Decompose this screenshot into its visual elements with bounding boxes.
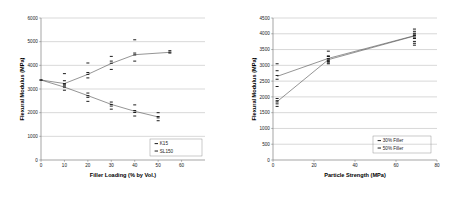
x-axis-tick-label: 50 xyxy=(156,163,162,168)
data-point xyxy=(276,100,279,101)
data-point xyxy=(157,112,160,113)
x-axis-title: Filler Loading (% by Vol.) xyxy=(90,172,157,178)
x-axis-tick-label: 0 xyxy=(40,163,43,168)
y-axis-title: Flexural Modulus (MPa) xyxy=(19,57,25,120)
y-axis-title: Flexural Modulus (MPa) xyxy=(251,57,257,120)
data-point xyxy=(413,33,416,34)
data-point xyxy=(413,41,416,42)
y-axis-tick-label: 2000 xyxy=(28,110,39,115)
legend-label-1: SL150 xyxy=(160,149,174,154)
data-point xyxy=(276,79,279,80)
data-point xyxy=(110,61,113,62)
data-point xyxy=(327,61,330,62)
chart-left-canvas: 01000200030004000500060000102030405060Fi… xyxy=(0,0,225,207)
data-point xyxy=(63,85,66,86)
data-point xyxy=(327,62,330,63)
series-trend-line-0 xyxy=(41,52,170,83)
data-point xyxy=(413,29,416,30)
data-point xyxy=(413,36,416,37)
data-point xyxy=(133,116,136,117)
data-point xyxy=(86,74,89,75)
data-point xyxy=(110,104,113,105)
data-point xyxy=(276,75,279,76)
data-point xyxy=(110,69,113,70)
y-axis-tick-label: 6000 xyxy=(28,16,39,21)
legend-marker-1 xyxy=(378,148,381,149)
data-point xyxy=(276,70,279,71)
x-axis-tick-label: 20 xyxy=(311,163,317,168)
data-point xyxy=(276,86,279,87)
data-point xyxy=(133,39,136,40)
data-point xyxy=(413,31,416,32)
chart-filler-loading: 01000200030004000500060000102030405060Fi… xyxy=(0,0,225,207)
legend-label-1: 50% Filler xyxy=(383,146,404,151)
y-axis-tick-label: 1000 xyxy=(260,126,271,131)
y-axis-tick-label: 3000 xyxy=(260,63,271,68)
data-point xyxy=(276,106,279,107)
data-point xyxy=(63,83,66,84)
data-point xyxy=(63,73,66,74)
y-axis-tick-label: 3500 xyxy=(260,47,271,52)
data-point xyxy=(413,38,416,39)
legend-label-0: 30% Filler xyxy=(383,138,404,143)
data-point xyxy=(276,103,279,104)
data-point xyxy=(86,63,89,64)
x-axis-tick-label: 40 xyxy=(132,163,138,168)
data-point xyxy=(413,43,416,44)
data-point xyxy=(86,95,89,96)
data-point xyxy=(63,90,66,91)
x-axis-tick-label: 60 xyxy=(393,163,399,168)
data-point xyxy=(86,77,89,78)
y-axis-tick-label: 1500 xyxy=(260,110,271,115)
data-point xyxy=(110,102,113,103)
data-point xyxy=(168,50,171,51)
two-panel-scatter-figure: 01000200030004000500060000102030405060Fi… xyxy=(0,0,450,207)
legend-marker-0 xyxy=(155,143,158,144)
data-point xyxy=(276,101,279,102)
data-point xyxy=(133,112,136,113)
chart-particle-strength: 0500100015002000250030003500400045000204… xyxy=(225,0,450,207)
y-axis-tick-label: 4000 xyxy=(28,63,39,68)
data-point xyxy=(86,97,89,98)
y-axis-tick-label: 0 xyxy=(35,158,38,163)
series-trend-line-1 xyxy=(277,36,414,102)
data-point xyxy=(157,117,160,118)
data-point xyxy=(86,101,89,102)
legend-marker-0 xyxy=(378,140,381,141)
x-axis-tick-label: 60 xyxy=(179,163,185,168)
x-axis-tick-label: 40 xyxy=(352,163,358,168)
data-point xyxy=(327,55,330,56)
x-axis-tick-label: 20 xyxy=(85,163,91,168)
x-axis-tick-label: 10 xyxy=(62,163,68,168)
data-point xyxy=(40,80,43,81)
data-point xyxy=(327,63,330,64)
data-point xyxy=(110,63,113,64)
data-point xyxy=(110,106,113,107)
data-point xyxy=(110,109,113,110)
x-axis-tick-label: 80 xyxy=(434,163,440,168)
data-point xyxy=(133,104,136,105)
data-point xyxy=(133,54,136,55)
data-point xyxy=(133,53,136,54)
data-point xyxy=(413,45,416,46)
data-point xyxy=(133,61,136,62)
y-axis-tick-label: 0 xyxy=(267,158,270,163)
y-axis-tick-label: 1000 xyxy=(28,134,39,139)
legend-marker-1 xyxy=(155,151,158,152)
data-point xyxy=(327,51,330,52)
x-axis-tick-label: 30 xyxy=(109,163,115,168)
y-axis-tick-label: 4000 xyxy=(260,31,271,36)
data-point xyxy=(327,60,330,61)
series-trend-line-1 xyxy=(41,80,158,117)
data-point xyxy=(86,93,89,94)
data-point xyxy=(276,98,279,99)
data-point xyxy=(86,72,89,73)
y-axis-tick-label: 2000 xyxy=(260,95,271,100)
data-point xyxy=(133,110,136,111)
data-point xyxy=(327,59,330,60)
data-point xyxy=(63,84,66,85)
y-axis-tick-label: 5000 xyxy=(28,39,39,44)
y-axis-tick-label: 500 xyxy=(262,142,270,147)
data-point xyxy=(63,80,66,81)
y-axis-tick-label: 2500 xyxy=(260,79,271,84)
